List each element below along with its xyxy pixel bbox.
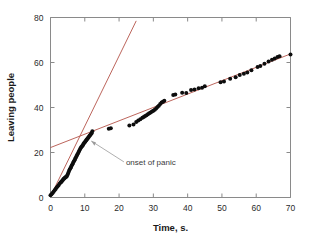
y-tick-label: 80 [34, 13, 44, 23]
data-point [90, 129, 94, 133]
x-axis-title: Time, s. [153, 222, 188, 233]
leaving-people-scatter-chart: 010203040506070 020406080 onset of panic… [0, 0, 311, 241]
data-point [193, 88, 197, 92]
data-point [289, 52, 293, 56]
data-point [242, 72, 246, 76]
x-tick-label: 0 [48, 203, 53, 213]
x-tick-label: 50 [217, 203, 227, 213]
data-point [245, 70, 249, 74]
chart-page: 010203040506070 020406080 onset of panic… [0, 0, 311, 241]
data-point [278, 54, 282, 58]
y-axis-title: Leaving people [5, 73, 16, 142]
data-point [234, 75, 238, 79]
y-tick-label: 20 [34, 148, 44, 158]
data-point [219, 80, 223, 84]
data-point [189, 88, 193, 92]
data-point [267, 60, 271, 64]
data-point [249, 68, 253, 72]
x-tick-label: 30 [149, 203, 159, 213]
data-point [228, 77, 232, 81]
data-point [258, 64, 262, 68]
data-point [184, 91, 188, 95]
x-tick-label: 10 [80, 203, 90, 213]
y-tick-label: 0 [39, 193, 44, 203]
y-tick-label: 40 [34, 103, 44, 113]
data-point [180, 91, 184, 95]
data-point [127, 124, 131, 128]
data-point [109, 126, 113, 130]
x-tick-label: 40 [183, 203, 193, 213]
data-point [162, 99, 166, 103]
data-point [238, 73, 242, 77]
data-point [173, 92, 177, 96]
annotation-label: onset of panic [126, 158, 176, 167]
data-point [262, 62, 266, 66]
y-tick-label: 60 [34, 58, 44, 68]
x-tick-label: 70 [286, 203, 296, 213]
x-tick-label: 20 [114, 203, 124, 213]
x-tick-label: 60 [251, 203, 261, 213]
data-point [203, 84, 207, 88]
data-point [222, 79, 226, 83]
data-point [197, 86, 201, 90]
